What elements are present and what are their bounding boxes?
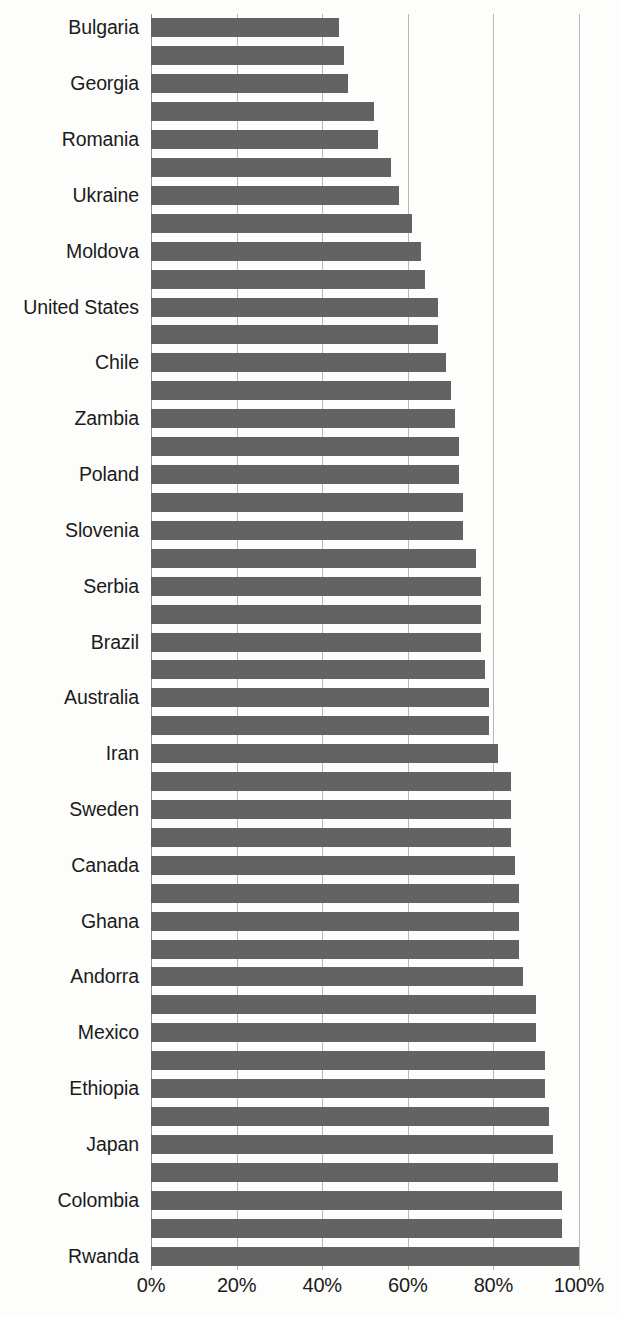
bar — [151, 130, 378, 149]
bar — [151, 1219, 562, 1238]
bar-row — [151, 242, 421, 261]
bar — [151, 995, 536, 1014]
bar — [151, 577, 481, 596]
bar — [151, 772, 511, 791]
bar-row — [151, 1051, 545, 1070]
bar-row — [151, 1219, 562, 1238]
bar-row — [151, 1247, 579, 1266]
x-tick-label: 0% — [137, 1274, 166, 1297]
bar — [151, 186, 399, 205]
bar — [151, 549, 476, 568]
x-tick-label: 40% — [302, 1274, 341, 1297]
bar-row — [151, 409, 455, 428]
bar — [151, 46, 344, 65]
bar — [151, 74, 348, 93]
category-label: Rwanda — [0, 1247, 145, 1266]
category-label: Zambia — [0, 409, 145, 428]
bar — [151, 967, 523, 986]
bar-row — [151, 381, 451, 400]
category-label: Slovenia — [0, 521, 145, 540]
bar-row — [151, 465, 459, 484]
x-tick-label: 100% — [554, 1274, 604, 1297]
bar — [151, 298, 438, 317]
bar-row — [151, 828, 511, 847]
bar-row — [151, 1023, 536, 1042]
bar — [151, 437, 459, 456]
bar-row — [151, 214, 412, 233]
bar-row — [151, 353, 446, 372]
bar — [151, 912, 519, 931]
bar — [151, 660, 485, 679]
bar-row — [151, 1107, 549, 1126]
bar-row — [151, 437, 459, 456]
plot-area — [151, 14, 579, 1270]
bar — [151, 18, 339, 37]
bar-row — [151, 186, 399, 205]
bar-row — [151, 325, 438, 344]
x-tick-label: 20% — [217, 1274, 256, 1297]
bar — [151, 1163, 558, 1182]
category-label: Ukraine — [0, 186, 145, 205]
gridline-100pct — [579, 14, 580, 1270]
bar-row — [151, 46, 344, 65]
bar-row — [151, 158, 391, 177]
bar — [151, 353, 446, 372]
bar-row — [151, 577, 481, 596]
category-label: United States — [0, 298, 145, 317]
x-tick-label: 60% — [388, 1274, 427, 1297]
bar — [151, 214, 412, 233]
bar-row — [151, 1163, 558, 1182]
category-label: Chile — [0, 353, 145, 372]
x-tick-label: 80% — [474, 1274, 513, 1297]
bar-row — [151, 912, 519, 931]
bar — [151, 856, 515, 875]
bar-row — [151, 716, 489, 735]
bar-row — [151, 270, 425, 289]
bar-row — [151, 102, 374, 121]
category-label: Serbia — [0, 577, 145, 596]
bar-row — [151, 1135, 553, 1154]
bar-row — [151, 493, 463, 512]
category-label: Mexico — [0, 1023, 145, 1042]
category-label: Bulgaria — [0, 18, 145, 37]
bar — [151, 633, 481, 652]
bar — [151, 521, 463, 540]
category-label: Iran — [0, 744, 145, 763]
bar — [151, 1079, 545, 1098]
bar — [151, 242, 421, 261]
bar-row — [151, 130, 378, 149]
category-label: Canada — [0, 856, 145, 875]
bar — [151, 1023, 536, 1042]
bar-row — [151, 1079, 545, 1098]
bar-row — [151, 660, 485, 679]
bar — [151, 884, 519, 903]
category-label: Georgia — [0, 74, 145, 93]
bar — [151, 1191, 562, 1210]
bar-row — [151, 856, 515, 875]
bar-row — [151, 940, 519, 959]
category-label: Poland — [0, 465, 145, 484]
bar — [151, 605, 481, 624]
category-label: Andorra — [0, 967, 145, 986]
bar-row — [151, 549, 476, 568]
bar-row — [151, 605, 481, 624]
category-axis-labels: BulgariaGeorgiaRomaniaUkraineMoldovaUnit… — [0, 14, 145, 1270]
bar-row — [151, 800, 511, 819]
category-label: Ethiopia — [0, 1079, 145, 1098]
bar — [151, 409, 455, 428]
category-label: Australia — [0, 688, 145, 707]
bar-row — [151, 521, 463, 540]
bar-series — [151, 14, 579, 1270]
bar-row — [151, 18, 339, 37]
bar-row — [151, 688, 489, 707]
category-label: Sweden — [0, 800, 145, 819]
bar-chart: BulgariaGeorgiaRomaniaUkraineMoldovaUnit… — [0, 0, 619, 1317]
category-label: Colombia — [0, 1191, 145, 1210]
bar-row — [151, 772, 511, 791]
bar — [151, 158, 391, 177]
bar-row — [151, 884, 519, 903]
bar — [151, 1135, 553, 1154]
value-axis-labels: 0%20%40%60%80%100% — [151, 1272, 579, 1306]
bar — [151, 270, 425, 289]
bar — [151, 102, 374, 121]
